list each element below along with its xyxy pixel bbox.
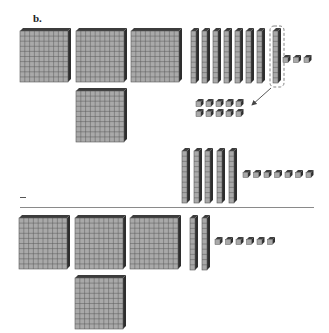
one-cube: [304, 55, 312, 63]
hundred-flat: [75, 275, 126, 329]
ten-rod: [205, 148, 213, 203]
hundred-flat: [130, 215, 181, 269]
one-cube: [216, 99, 224, 107]
one-cube: [294, 55, 302, 63]
ten-rod: [190, 215, 198, 270]
one-cube: [247, 237, 255, 245]
ten-rod: [246, 28, 254, 83]
one-cube: [283, 55, 291, 63]
one-cube: [216, 109, 224, 117]
one-cube: [226, 99, 234, 107]
one-cube: [275, 170, 283, 178]
ten-rod: [273, 28, 281, 83]
ten-rod: [229, 148, 237, 203]
one-cube: [254, 170, 262, 178]
regroup-arrow-icon: [252, 88, 271, 105]
one-cube: [306, 170, 314, 178]
ten-rod: [224, 28, 232, 83]
one-cube: [206, 99, 214, 107]
ten-rod: [202, 28, 210, 83]
one-cube: [236, 237, 244, 245]
hundred-flat: [76, 28, 127, 82]
one-cube: [196, 109, 204, 117]
ten-rod: [257, 28, 265, 83]
hundred-flat: [19, 215, 70, 269]
one-cube: [226, 237, 234, 245]
ten-rod: [235, 28, 243, 83]
minus-sign: [20, 197, 26, 198]
hundred-flat: [75, 215, 126, 269]
ten-rod: [182, 148, 190, 203]
one-cube: [264, 170, 272, 178]
ten-rod: [202, 215, 210, 270]
one-cube: [243, 170, 251, 178]
ten-rod: [217, 148, 225, 203]
one-cube: [296, 170, 304, 178]
ten-rod: [191, 28, 199, 83]
one-cube: [236, 109, 244, 117]
one-cube: [196, 99, 204, 107]
base-ten-blocks-diagram: [0, 0, 329, 333]
one-cube: [268, 237, 276, 245]
ten-rod: [213, 28, 221, 83]
result-rule-line: [20, 207, 314, 208]
one-cube: [226, 109, 234, 117]
hundred-flat: [20, 28, 71, 82]
one-cube: [236, 99, 244, 107]
one-cube: [215, 237, 223, 245]
one-cube: [257, 237, 265, 245]
one-cube: [285, 170, 293, 178]
one-cube: [206, 109, 214, 117]
hundred-flat: [76, 88, 127, 142]
hundred-flat: [131, 28, 182, 82]
ten-rod: [194, 148, 202, 203]
